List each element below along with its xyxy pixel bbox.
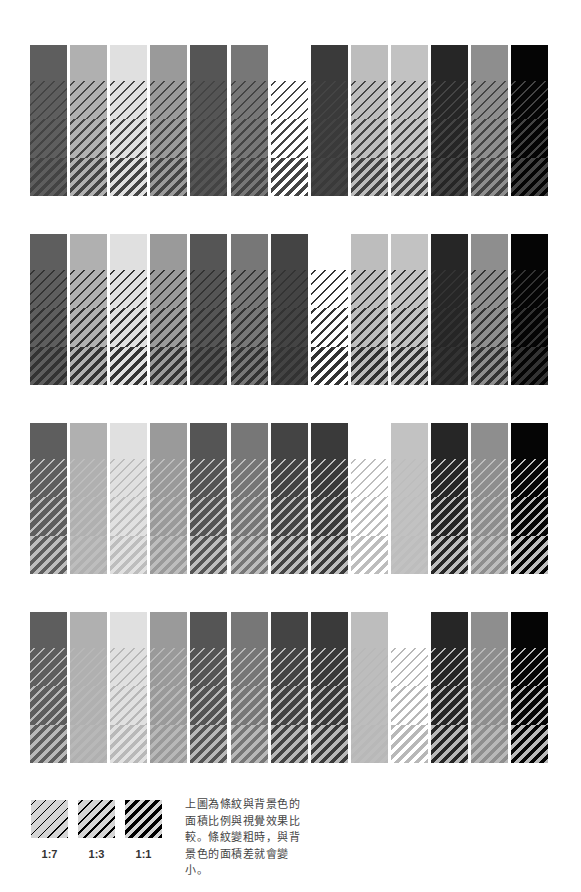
color-column bbox=[30, 612, 67, 763]
solid-segment bbox=[150, 612, 187, 648]
color-column bbox=[190, 45, 227, 196]
stripe-row-3 bbox=[30, 423, 552, 574]
solid-segment bbox=[271, 423, 308, 459]
hatch-segment-1-1 bbox=[471, 536, 508, 574]
hatch-segment-1-7 bbox=[271, 459, 308, 497]
hatch-segment-1-7 bbox=[311, 270, 348, 308]
hatch-segment-1-7 bbox=[190, 81, 227, 119]
hatch-segment-1-3 bbox=[231, 686, 268, 725]
stripe-row-4 bbox=[30, 612, 552, 763]
color-column bbox=[70, 423, 107, 574]
solid-segment bbox=[190, 612, 227, 648]
hatch-segment-1-7 bbox=[391, 459, 428, 497]
hatch-segment-1-3 bbox=[311, 686, 348, 725]
color-column bbox=[511, 234, 548, 385]
solid-segment bbox=[110, 45, 147, 81]
hatch-segment-1-1 bbox=[110, 158, 147, 196]
hatch-segment-1-3 bbox=[150, 497, 187, 536]
hatch-segment-1-3 bbox=[70, 308, 107, 347]
solid-segment bbox=[231, 45, 268, 81]
hatch-segment-1-1 bbox=[471, 725, 508, 763]
hatch-segment-1-3 bbox=[471, 497, 508, 536]
hatch-segment-1-3 bbox=[150, 308, 187, 347]
solid-segment bbox=[70, 423, 107, 459]
solid-segment bbox=[231, 234, 268, 270]
hatch-segment-1-7 bbox=[150, 81, 187, 119]
hatch-segment-1-1 bbox=[391, 725, 428, 763]
color-column bbox=[150, 423, 187, 574]
hatch-segment-1-7 bbox=[351, 648, 388, 686]
hatch-segment-1-7 bbox=[511, 648, 548, 686]
hatch-segment-1-7 bbox=[311, 81, 348, 119]
solid-segment bbox=[471, 45, 508, 81]
solid-segment bbox=[30, 234, 67, 270]
hatch-segment-1-3 bbox=[511, 497, 548, 536]
hatch-segment-1-7 bbox=[471, 459, 508, 497]
hatch-segment-1-3 bbox=[110, 686, 147, 725]
color-column bbox=[190, 612, 227, 763]
solid-segment bbox=[190, 423, 227, 459]
solid-segment bbox=[311, 423, 348, 459]
hatch-segment-1-7 bbox=[30, 459, 67, 497]
hatch-segment-1-1 bbox=[70, 158, 107, 196]
color-column bbox=[150, 612, 187, 763]
stripe-row-2 bbox=[30, 234, 552, 385]
hatch-segment-1-1 bbox=[271, 158, 308, 196]
hatch-segment-1-1 bbox=[190, 725, 227, 763]
hatch-segment-1-1 bbox=[471, 347, 508, 385]
solid-segment bbox=[311, 612, 348, 648]
color-column bbox=[311, 234, 348, 385]
hatch-segment-1-7 bbox=[231, 648, 268, 686]
hatch-segment-1-7 bbox=[150, 648, 187, 686]
legend-swatch-1-7 bbox=[31, 800, 68, 838]
solid-segment bbox=[471, 423, 508, 459]
color-column bbox=[431, 423, 468, 574]
color-column bbox=[110, 45, 147, 196]
hatch-segment-1-1 bbox=[431, 347, 468, 385]
hatch-segment-1-3 bbox=[351, 308, 388, 347]
solid-segment bbox=[30, 423, 67, 459]
hatch-segment-1-7 bbox=[431, 459, 468, 497]
solid-segment bbox=[351, 45, 388, 81]
hatch-segment-1-1 bbox=[30, 725, 67, 763]
hatch-segment-1-7 bbox=[271, 648, 308, 686]
hatch-segment-1-1 bbox=[511, 158, 548, 196]
solid-segment bbox=[431, 45, 468, 81]
hatch-segment-1-1 bbox=[391, 536, 428, 574]
hatch-segment-1-3 bbox=[30, 308, 67, 347]
color-column bbox=[150, 45, 187, 196]
hatch-segment-1-1 bbox=[351, 347, 388, 385]
solid-segment bbox=[511, 234, 548, 270]
solid-segment bbox=[471, 234, 508, 270]
solid-segment bbox=[471, 612, 508, 648]
color-column bbox=[271, 423, 308, 574]
solid-segment bbox=[70, 45, 107, 81]
hatch-segment-1-7 bbox=[231, 81, 268, 119]
hatch-segment-1-1 bbox=[511, 347, 548, 385]
hatch-segment-1-1 bbox=[190, 158, 227, 196]
hatch-segment-1-3 bbox=[391, 686, 428, 725]
hatch-segment-1-3 bbox=[70, 497, 107, 536]
hatch-segment-1-1 bbox=[431, 158, 468, 196]
solid-segment bbox=[190, 45, 227, 81]
hatch-segment-1-7 bbox=[70, 81, 107, 119]
color-column bbox=[351, 234, 388, 385]
color-column bbox=[110, 234, 147, 385]
color-column bbox=[110, 423, 147, 574]
color-column bbox=[511, 45, 548, 196]
color-column bbox=[70, 234, 107, 385]
hatch-segment-1-1 bbox=[150, 158, 187, 196]
stripe-row-1 bbox=[30, 45, 552, 196]
hatch-segment-1-7 bbox=[110, 459, 147, 497]
color-column bbox=[471, 612, 508, 763]
color-column bbox=[391, 234, 428, 385]
hatch-segment-1-3 bbox=[150, 686, 187, 725]
color-column bbox=[351, 45, 388, 196]
color-column bbox=[391, 45, 428, 196]
hatch-segment-1-1 bbox=[30, 158, 67, 196]
solid-segment bbox=[110, 234, 147, 270]
hatch-segment-1-1 bbox=[351, 536, 388, 574]
hatch-segment-1-3 bbox=[431, 119, 468, 158]
hatch-segment-1-1 bbox=[471, 158, 508, 196]
hatch-segment-1-3 bbox=[231, 119, 268, 158]
